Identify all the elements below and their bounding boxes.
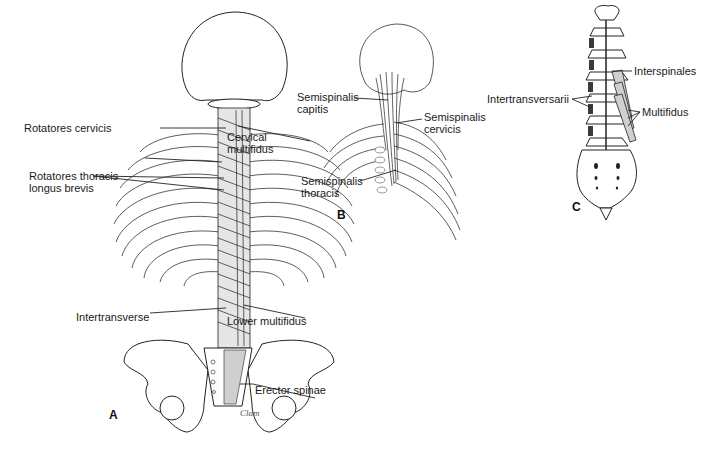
label-multifidus: Multifidus	[642, 106, 688, 119]
label-interspinales: Interspinales	[634, 65, 696, 78]
panel-c-illustration	[0, 0, 723, 449]
anatomy-figure: Clam Rotatores cervicis Cervical multifi…	[0, 0, 723, 449]
panel-letter-c: C	[572, 200, 581, 214]
label-intertransversarii: Intertransversarii	[487, 93, 569, 106]
